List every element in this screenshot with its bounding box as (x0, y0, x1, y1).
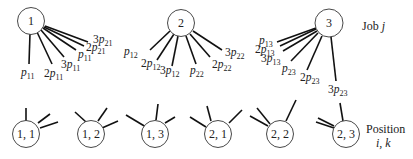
job-node-2: 2 (168, 10, 195, 37)
label-3p11: 3p11 (61, 58, 80, 73)
svg-text:1, 1: 1, 1 (17, 127, 35, 141)
edge-job3-3p23 (331, 37, 336, 81)
label-3p13: 3p13 (261, 52, 281, 67)
edge-job2-p12 (150, 31, 170, 50)
positions-legend-vars: i, k (376, 136, 391, 150)
job-1-edge-labels: p11 2p11 3p11 p11 2p21 3p21 (20, 33, 113, 82)
label-p12: p12 (123, 45, 138, 60)
position-node-1-2: 1, 2 (78, 121, 105, 148)
positions-legend-title: Position (366, 122, 405, 136)
svg-text:2, 3: 2, 3 (337, 127, 355, 141)
label-p11: p11 (20, 66, 34, 81)
position-node-2-2: 2, 2 (267, 121, 294, 148)
label-3p23: 3p23 (328, 83, 348, 98)
edge-job1-2p11 (37, 32, 52, 64)
position-node-1-1: 1, 1 (13, 121, 40, 148)
label-3p22: 3p22 (225, 46, 245, 61)
svg-text:1, 3: 1, 3 (146, 127, 164, 141)
edge-job1-2p21 (44, 27, 84, 46)
svg-text:2: 2 (178, 16, 184, 30)
position-node-2-1: 2, 1 (205, 121, 232, 148)
assignment-diagram: 1 2 3 p11 2p11 3p11 p11 2p21 3p21 p12 2p… (0, 0, 413, 159)
edge-job2-2p12 (157, 34, 174, 60)
label-3p12: 3p12 (160, 64, 180, 79)
jobs-legend: Job j (362, 19, 386, 33)
job-node-1: 1 (18, 8, 45, 35)
edge-job1-p11 (29, 33, 30, 64)
svg-text:2, 1: 2, 1 (209, 127, 227, 141)
label-p23: p23 (281, 62, 296, 77)
edge-job3-2p13 (280, 29, 316, 46)
svg-text:1, 2: 1, 2 (82, 127, 100, 141)
label-2p23: 2p23 (300, 71, 320, 86)
svg-text:2, 2: 2, 2 (271, 127, 289, 141)
position-stubs (26, 100, 343, 128)
position-node-2-3: 2, 3 (333, 121, 360, 148)
svg-text:1: 1 (28, 14, 34, 28)
label-2p22: 2p22 (212, 58, 232, 73)
job-2-edge-labels: p12 2p12 3p12 p22 2p22 3p22 (123, 45, 245, 79)
svg-text:3: 3 (326, 16, 332, 30)
position-node-1-3: 1, 3 (142, 121, 169, 148)
job-node-3: 3 (315, 9, 343, 37)
edge-job2-3p12 (172, 36, 178, 66)
label-p22: p22 (189, 64, 204, 79)
edge-job3-p23 (291, 33, 318, 61)
edge-job2-3p22 (193, 31, 222, 50)
